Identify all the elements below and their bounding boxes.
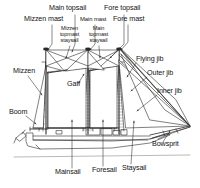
mainsail [48,68,86,128]
label-inner-jib: Inner jib [157,87,182,94]
leader-mizzen-topmast-staysail [66,46,70,58]
label-flying-jib: Flying jib [136,55,163,62]
label-mizzen-topmast-staysail: Mizzen topmast staysail [58,25,81,43]
leader-mizzen [28,76,42,95]
anchor [14,130,26,143]
main-topmast-staysail [88,52,104,70]
label-staysail: Staysail [122,164,146,171]
label-mizzen-mast: Mizzen mast [24,15,63,22]
waterline [14,155,190,157]
label-fore-mast: Fore mast [113,15,144,22]
leader-mizzen-mast [48,25,52,50]
label-main-topsail: Main topsail [49,4,86,11]
label-outer-jib: Outer jib [147,69,173,76]
label-gaff: Gaff [67,80,80,87]
label-foresail: Foresail [92,166,117,173]
label-fore-topsail: Fore topsail [104,4,140,11]
bowsprit-spar [150,126,190,139]
label-mainsail: Mainsail [55,168,81,175]
label-bowsprit: Bowsprit [152,140,179,147]
label-main-topmast-staysail: Main topmast staysail [87,25,110,43]
mizzen-sail [33,66,46,128]
hull [26,128,170,149]
main-topsail [66,50,88,71]
label-boom: Boom [9,108,27,115]
label-mizzen: Mizzen [13,67,35,74]
foresail [90,66,117,128]
label-main-mast: Main mast [80,16,106,22]
